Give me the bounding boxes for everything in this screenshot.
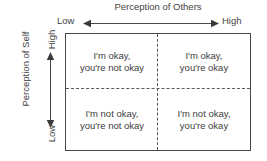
quadrant-bottom-right: I'm not okay, you're okay (158, 89, 250, 150)
quadrant-bottom-right-line1: I'm not okay, (178, 108, 231, 120)
quadrant-top-left: I'm okay, you're not okay (66, 34, 158, 89)
y-axis-low-label: Low (46, 121, 57, 147)
x-axis-low-label: Low (57, 15, 74, 26)
x-axis-title: Perception of Others (66, 1, 250, 12)
y-axis-double-arrow-icon (45, 52, 56, 128)
quadrant-bottom-left-line1: I'm not okay, (80, 108, 144, 120)
quadrant-top-left-line1: I'm okay, (80, 50, 144, 62)
quadrant-bottom-right-line2: you're okay (178, 120, 231, 132)
y-axis-title-line1: Perception (20, 61, 31, 106)
quadrant-top-right-line2: you're okay (180, 62, 228, 74)
x-axis-high-label: High (222, 15, 242, 26)
quadrant-matrix: I'm okay, you're not okay I'm okay, you'… (65, 33, 251, 151)
quadrant-top-right-line1: I'm okay, (180, 50, 228, 62)
quadrant-bottom-left-line2: you're not okay (80, 120, 144, 132)
quadrant-bottom-left: I'm not okay, you're not okay (66, 89, 158, 150)
quadrant-top-left-line2: you're not okay (80, 62, 144, 74)
y-axis-title-line2: of Self (20, 32, 31, 59)
y-axis-high-label: High (46, 27, 57, 53)
x-axis-double-arrow-icon (83, 15, 219, 26)
y-axis-title: Perception of Self (20, 14, 44, 124)
quadrant-top-right: I'm okay, you're okay (158, 34, 250, 89)
